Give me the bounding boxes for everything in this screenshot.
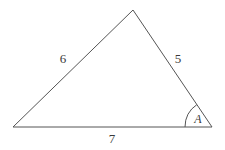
side-label-base: 7 (109, 132, 116, 145)
side-label-left: 6 (60, 52, 67, 65)
triangle-figure: 6 5 7 A (0, 0, 225, 150)
side-label-right: 5 (175, 52, 182, 65)
angle-label-A: A (194, 113, 201, 125)
triangle-drawing (0, 0, 225, 150)
triangle-outline (13, 10, 212, 127)
